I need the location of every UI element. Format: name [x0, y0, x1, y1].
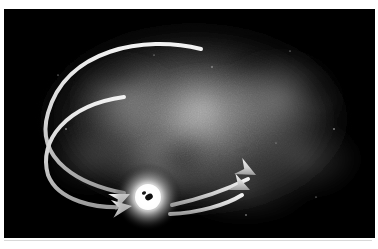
black-hole-core — [114, 163, 182, 231]
figure-root — [0, 0, 378, 249]
nebula-cloud — [4, 9, 375, 238]
page-margin-top — [0, 0, 378, 9]
sky-plate — [4, 9, 375, 238]
page-margin-left — [0, 0, 4, 249]
caption-hairline — [4, 240, 372, 241]
astronomical-illustration — [4, 9, 375, 238]
nebula-grain — [4, 9, 375, 238]
